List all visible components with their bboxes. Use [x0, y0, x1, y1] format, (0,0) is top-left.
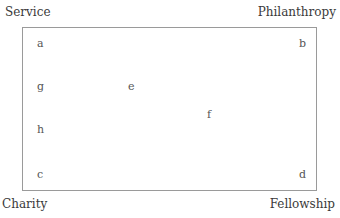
- point-b: b: [299, 38, 306, 49]
- corner-label-philanthropy: Philanthropy: [258, 5, 336, 19]
- quadrant-frame: [22, 27, 317, 191]
- corner-label-charity: Charity: [2, 197, 47, 211]
- corner-label-service: Service: [5, 5, 51, 19]
- point-d: d: [299, 169, 306, 180]
- point-a: a: [37, 38, 44, 49]
- point-e: e: [128, 81, 135, 92]
- point-g: g: [37, 81, 44, 92]
- point-c: c: [37, 169, 43, 180]
- point-f: f: [207, 109, 211, 120]
- point-h: h: [37, 124, 44, 135]
- corner-label-fellowship: Fellowship: [270, 197, 335, 211]
